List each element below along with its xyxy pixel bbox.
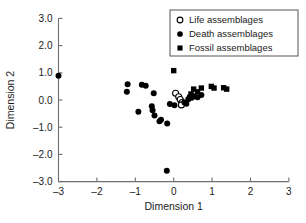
scatter-plot-figure: –3–2–101233.02.01.00.0–1.0–2.0–3.0 Dimen…	[0, 0, 306, 223]
legend-2-fossil-point	[177, 45, 182, 50]
data-death-point	[143, 83, 149, 89]
legend-item-2[interactable]: Fossil assemblages	[177, 42, 272, 53]
legend-item-0[interactable]: Life assemblages	[177, 14, 263, 25]
data-points-group	[56, 68, 230, 174]
y-tick-label: 3.0	[39, 13, 53, 24]
x-tick-label: –2	[91, 186, 103, 197]
x-axis-title: Dimension 1	[145, 200, 204, 212]
legend-item-label: Fossil assemblages	[189, 42, 273, 53]
data-fossil-point	[211, 85, 216, 90]
x-tick-label: 3	[286, 186, 292, 197]
data-fossil-point	[171, 68, 176, 73]
data-fossil-point	[188, 91, 193, 96]
data-death-point	[150, 107, 156, 113]
data-death-point	[124, 89, 130, 95]
y-tick-label: –3.0	[33, 176, 53, 187]
data-death-point	[152, 113, 158, 119]
legend: Life assemblagesDeath assemblagesFossil …	[170, 10, 298, 56]
legend-item-1[interactable]: Death assemblages	[177, 28, 273, 39]
x-tick-label: 0	[171, 186, 177, 197]
series-death-assemblages	[56, 73, 205, 174]
legend-1-death-point	[177, 31, 183, 37]
y-tick-label: 2.0	[39, 40, 53, 51]
y-tick-label: –2.0	[33, 149, 53, 160]
series-fossil-assemblages	[171, 68, 229, 97]
data-death-point	[164, 168, 170, 174]
x-tick-label: 1	[209, 186, 215, 197]
legend-item-label: Life assemblages	[189, 14, 263, 25]
legend-0-life-point	[177, 17, 183, 23]
legend-item-label: Death assemblages	[189, 28, 273, 39]
y-tick-label: 0.0	[39, 95, 53, 106]
data-fossil-point	[224, 86, 229, 91]
y-axis-title: Dimension 2	[4, 71, 16, 130]
data-death-point	[171, 102, 177, 108]
plot-canvas: –3–2–101233.02.01.00.0–1.0–2.0–3.0 Dimen…	[0, 0, 306, 223]
x-tick-label: –3	[53, 186, 65, 197]
y-tick-label: 1.0	[39, 67, 53, 78]
data-death-point	[164, 120, 170, 126]
y-tick-label: –1.0	[33, 122, 53, 133]
data-death-point	[135, 109, 141, 115]
x-tick-label: 2	[248, 186, 254, 197]
data-death-point	[158, 117, 164, 123]
data-death-point	[125, 81, 131, 87]
data-fossil-point	[199, 85, 204, 90]
data-death-point	[151, 90, 157, 96]
x-tick-label: –1	[130, 186, 142, 197]
data-death-point	[56, 73, 62, 79]
